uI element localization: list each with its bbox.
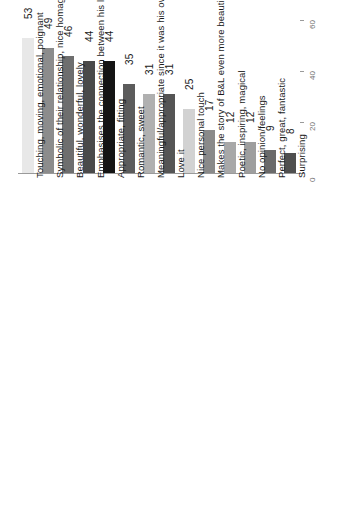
axis-tick-mark <box>300 122 304 123</box>
bar-value-label: 35 <box>124 53 135 65</box>
axis-tick-label: 20 <box>308 122 317 131</box>
bar-value-label: 31 <box>144 63 155 75</box>
bar-value-label: 53 <box>23 7 34 19</box>
bar <box>22 38 34 173</box>
axis-tick-mark <box>300 71 304 72</box>
bar-value-label: 25 <box>184 79 195 91</box>
axis-tick-label: 60 <box>308 20 317 29</box>
bar-slot: 53 <box>22 20 34 173</box>
category-axis-labels: Touching, moving, emotional, poignantSym… <box>18 178 300 518</box>
axis-tick-label: 40 <box>308 71 317 80</box>
axis-tick-label: 0 <box>308 178 317 182</box>
bar-chart: 53494644443531312517121298 0204060 Touch… <box>0 0 346 528</box>
bar-value-label: 44 <box>84 30 95 42</box>
axis-tick-mark <box>300 20 304 21</box>
